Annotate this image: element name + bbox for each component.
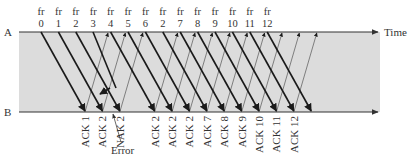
- frame-label-number: 2: [73, 18, 78, 29]
- channel-region: [19, 32, 380, 112]
- frame-label-prefix: fr: [125, 6, 132, 17]
- frame-label-prefix: fr: [142, 6, 149, 17]
- go-back-n-diagram: fr0fr1fr2fr3fr4fr5fr6fr2fr7fr8fr9fr10fr1…: [0, 0, 413, 165]
- frame-label-prefix: fr: [246, 6, 253, 17]
- time-axis-label: Time: [384, 26, 407, 38]
- frame-labels: fr0fr1fr2fr3fr4fr5fr6fr2fr7fr8fr9fr10fr1…: [38, 6, 273, 29]
- error-label: Error: [111, 144, 135, 156]
- frame-label-prefix: fr: [107, 6, 114, 17]
- frame-label-prefix: fr: [212, 6, 219, 17]
- station-b-label: B: [4, 106, 11, 118]
- frame-label-prefix: fr: [229, 6, 236, 17]
- frame-label-number: 12: [262, 18, 273, 29]
- response-label: ACK 10: [253, 116, 265, 153]
- response-label: ACK 2: [166, 116, 178, 147]
- response-label: ACK 1: [79, 116, 91, 147]
- frame-label-prefix: fr: [90, 6, 97, 17]
- frame-label-prefix: fr: [177, 6, 184, 17]
- frame-label-prefix: fr: [72, 6, 79, 17]
- frame-label-number: 6: [143, 18, 148, 29]
- frame-label-number: 0: [38, 18, 43, 29]
- frame-label-number: 4: [108, 18, 114, 29]
- station-a-label: A: [4, 26, 12, 38]
- frame-label-number: 5: [125, 18, 130, 29]
- response-label: ACK 7: [201, 116, 213, 148]
- response-label: ACK 2: [149, 116, 161, 147]
- response-label: ACK 2: [183, 116, 195, 147]
- frame-label-number: 7: [178, 18, 183, 29]
- frame-label-number: 3: [91, 18, 96, 29]
- frame-label-prefix: fr: [159, 6, 166, 17]
- frame-label-number: 1: [56, 18, 61, 29]
- response-label: ACK 2: [96, 116, 108, 147]
- frame-label-number: 9: [212, 18, 217, 29]
- frame-label-prefix: fr: [38, 6, 45, 17]
- frame-label-number: 8: [195, 18, 200, 29]
- response-label: ACK 11: [270, 116, 282, 153]
- frame-label-prefix: fr: [194, 6, 201, 17]
- frame-label-prefix: fr: [264, 6, 271, 17]
- response-label: ACK 9: [236, 116, 248, 148]
- response-label: ACK 8: [218, 116, 230, 148]
- frame-label-number: 11: [245, 18, 255, 29]
- response-label: ACK 12: [288, 116, 300, 153]
- frame-label-number: 10: [227, 18, 238, 29]
- frame-label-number: 2: [160, 18, 165, 29]
- frame-label-prefix: fr: [55, 6, 62, 17]
